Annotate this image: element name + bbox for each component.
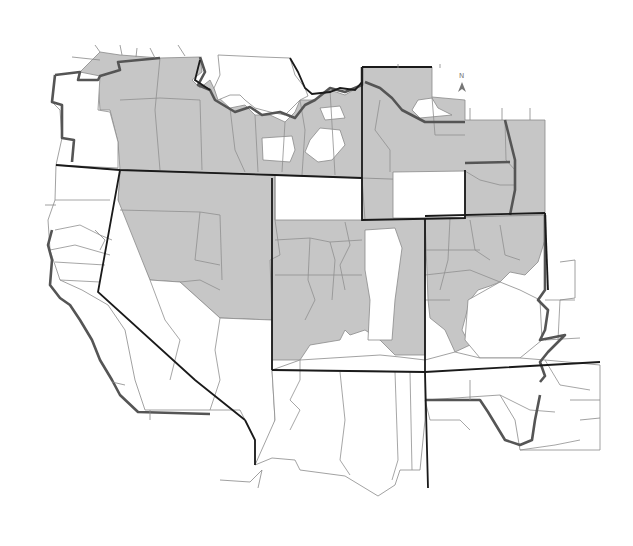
county-map: N <box>0 0 633 546</box>
region-arizona-south <box>255 370 425 496</box>
region-plains-east-unshaded <box>465 282 542 358</box>
region-northern-plains-unshaded <box>393 171 465 218</box>
north-arrow: N <box>458 72 466 92</box>
north-arrow-label: N <box>459 72 464 80</box>
north-arrow-icon <box>458 82 466 92</box>
region-central-islands-1 <box>262 136 295 162</box>
region-central-islands-3 <box>320 106 345 120</box>
